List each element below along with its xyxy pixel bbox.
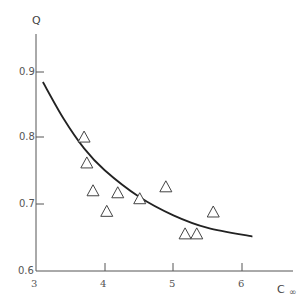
triangle-marker-icon	[207, 206, 219, 217]
triangle-marker-icon	[160, 181, 172, 192]
y-tick-label: 0.8	[19, 131, 35, 142]
y-tick-label: 0.7	[19, 198, 35, 209]
x-tick-label: 4	[100, 278, 106, 289]
x-axis-label: C	[277, 283, 285, 296]
y-tick-label: 0.6	[18, 265, 34, 276]
triangle-marker-icon	[81, 157, 93, 168]
y-tick-label: 0.9	[19, 66, 35, 77]
triangle-marker-icon	[87, 185, 99, 196]
triangle-marker-icon	[101, 205, 113, 216]
x-tick-label: 6	[238, 278, 244, 289]
x-tick-label: 3	[31, 278, 37, 289]
triangle-marker-icon	[191, 228, 203, 239]
triangle-marker-icon	[112, 187, 124, 198]
x-axis-label-subscript: ∞	[289, 287, 297, 297]
fit-curve	[43, 82, 253, 236]
y-ticks	[36, 72, 44, 204]
triangle-marker-icon	[179, 228, 191, 239]
x-ticks	[105, 263, 242, 271]
data-points	[78, 131, 219, 239]
x-tick-label: 5	[169, 278, 175, 289]
y-axis-label: Q	[32, 14, 41, 27]
fit-line	[43, 82, 253, 236]
triangle-marker-icon	[78, 131, 90, 142]
chart: 0.9 0.8 0.7 0.6 3 4 5 6 Q C ∞	[0, 0, 307, 307]
